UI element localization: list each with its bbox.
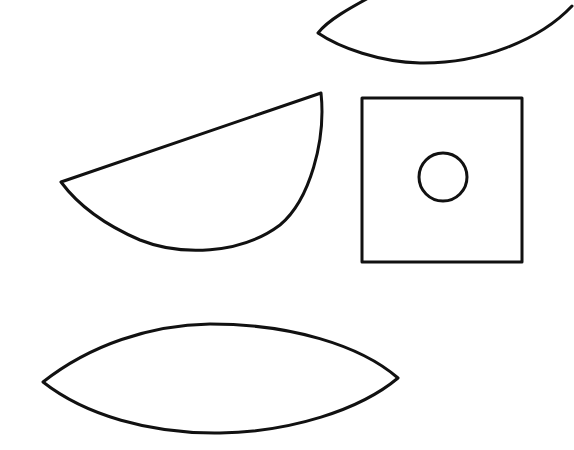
circle-in-square-shape: [419, 153, 467, 201]
lens-top-partial-shape: [318, 0, 572, 63]
lens-bottom-shape: [43, 324, 398, 433]
shapes-canvas: [0, 0, 574, 450]
half-disc-shape: [61, 93, 322, 250]
